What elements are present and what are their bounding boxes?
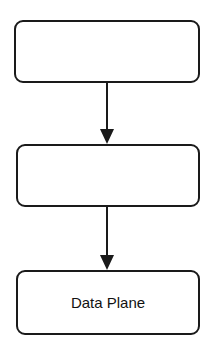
flow-node-2 xyxy=(16,144,200,207)
arrow-node1-to-node2 xyxy=(100,83,114,144)
arrow-node2-to-node3 xyxy=(100,207,114,270)
node-label: Data Plane xyxy=(71,294,145,311)
flow-node-data-plane: Data Plane xyxy=(16,270,200,335)
flow-node-1 xyxy=(14,20,200,83)
